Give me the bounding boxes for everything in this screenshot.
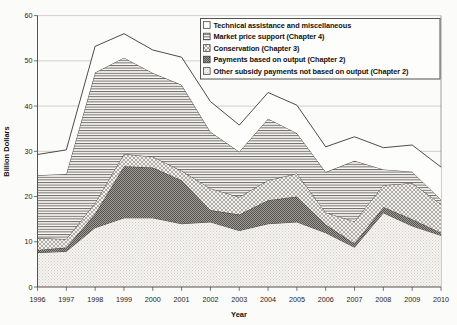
stacked-area-chart: 0102030405060199619971998199920002001200… — [0, 0, 457, 325]
x-tick-label: 2009 — [404, 295, 420, 304]
x-tick-label: 2000 — [145, 295, 161, 304]
legend: Technical assistance and miscellaneousMa… — [201, 19, 441, 80]
legend-label-market-price-support-chapter-4: Market price support (Chapter 4) — [214, 32, 326, 41]
y-tick-label: 50 — [25, 56, 33, 65]
legend-item-conservation-chapter-3: Conservation (Chapter 3) — [204, 44, 300, 53]
x-tick-label: 2007 — [347, 295, 363, 304]
legend-label-other-subsidy-payments-not-based-on-output-chapter-2: Other subsidy payments not based on outp… — [214, 67, 409, 76]
x-tick-label: 2005 — [289, 295, 305, 304]
x-tick-label: 2010 — [433, 295, 449, 304]
x-tick-label: 2004 — [260, 295, 276, 304]
x-tick-label: 1998 — [87, 295, 103, 304]
legend-label-payments-based-on-output-chapter-2: Payments based on output (Chapter 2) — [214, 55, 346, 64]
stacked-area-chart-figure: 0102030405060199619971998199920002001200… — [0, 0, 457, 325]
x-tick-label: 2003 — [231, 295, 247, 304]
y-tick-label: 30 — [25, 147, 33, 156]
legend-swatch-technical-assistance-and-miscellaneous — [204, 22, 211, 29]
legend-label-conservation-chapter-3: Conservation (Chapter 3) — [214, 44, 300, 53]
y-tick-label: 60 — [25, 11, 33, 20]
legend-swatch-other-subsidy-payments-not-based-on-output-chapter-2 — [204, 68, 211, 75]
y-tick-label: 40 — [25, 102, 33, 111]
x-tick-label: 1997 — [58, 295, 74, 304]
y-tick-label: 10 — [25, 237, 33, 246]
x-tick-label: 2008 — [375, 295, 391, 304]
legend-swatch-payments-based-on-output-chapter-2 — [204, 56, 211, 63]
x-tick-label: 2002 — [202, 295, 218, 304]
y-tick-label: 0 — [29, 283, 33, 292]
legend-item-payments-based-on-output-chapter-2: Payments based on output (Chapter 2) — [204, 55, 346, 64]
x-tick-label: 1999 — [116, 295, 132, 304]
legend-item-market-price-support-chapter-4: Market price support (Chapter 4) — [204, 32, 326, 41]
x-axis-title: Year — [231, 310, 247, 319]
x-tick-label: 2006 — [318, 295, 334, 304]
x-tick-label: 2001 — [174, 295, 190, 304]
legend-swatch-conservation-chapter-3 — [204, 45, 211, 52]
legend-label-technical-assistance-and-miscellaneous: Technical assistance and miscellaneous — [214, 21, 352, 30]
legend-item-other-subsidy-payments-not-based-on-output-chapter-2: Other subsidy payments not based on outp… — [204, 67, 409, 76]
legend-item-technical-assistance-and-miscellaneous: Technical assistance and miscellaneous — [204, 21, 352, 30]
y-tick-label: 20 — [25, 192, 33, 201]
y-axis-title: Billion Dollars — [2, 126, 11, 176]
legend-swatch-market-price-support-chapter-4 — [204, 33, 211, 40]
x-tick-label: 1996 — [30, 295, 46, 304]
